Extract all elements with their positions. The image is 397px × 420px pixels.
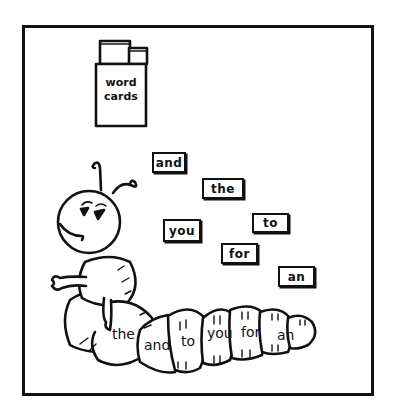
segment-word-the: the: [112, 326, 135, 342]
word-card-for[interactable]: for: [221, 243, 258, 264]
word-card-you[interactable]: you: [163, 219, 201, 242]
segment-word-an: an: [277, 327, 294, 343]
word-card-the[interactable]: the: [202, 178, 244, 199]
box-label-line-2: cards: [96, 90, 146, 104]
word-card-and[interactable]: and: [152, 152, 186, 173]
segment-word-and: and: [144, 337, 170, 353]
caterpillar-drawing: [0, 0, 397, 420]
word-card-an[interactable]: an: [278, 266, 315, 287]
word-card-to[interactable]: to: [252, 213, 289, 233]
segment-word-for: for: [241, 324, 260, 340]
word-cards-box-label: word cards: [96, 76, 146, 104]
box-label-line-1: word: [96, 76, 146, 90]
segment-word-you: you: [207, 325, 233, 341]
segment-word-to: to: [181, 333, 195, 349]
